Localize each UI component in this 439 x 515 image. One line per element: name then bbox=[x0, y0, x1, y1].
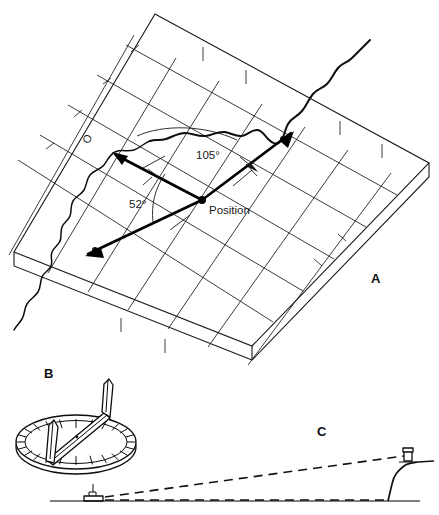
angle-leader-52 bbox=[143, 177, 152, 185]
sight-line-upper bbox=[105, 456, 404, 497]
chart-top-outline bbox=[14, 14, 429, 346]
chart-right-thickness bbox=[252, 163, 429, 360]
panel-label-b: B bbox=[44, 366, 54, 381]
coastline-left-bay bbox=[60, 141, 150, 241]
navigation-figure: O 105° 52° Position bbox=[0, 0, 439, 515]
chart-mark-o: O bbox=[80, 133, 94, 145]
position-label: Position bbox=[209, 204, 250, 216]
chart-edge-ticks bbox=[46, 45, 382, 353]
panel-a-chart: O 105° 52° Position bbox=[9, 14, 429, 365]
angle-label-105: 105° bbox=[196, 149, 220, 161]
ship-hull bbox=[84, 496, 103, 501]
angle-label-52: 52° bbox=[129, 198, 146, 210]
chart-grid-set-2 bbox=[18, 45, 397, 322]
coastline-upper bbox=[281, 40, 370, 141]
pelorus-pivot-dot bbox=[76, 436, 79, 439]
panel-label-c: C bbox=[317, 424, 327, 439]
lighthouse-lantern bbox=[403, 448, 413, 452]
panel-label-a: A bbox=[371, 271, 381, 286]
angle-arc-52 bbox=[153, 174, 166, 222]
callout-line-1 bbox=[143, 156, 165, 168]
callout-line-3 bbox=[233, 170, 252, 186]
position-fix-dot bbox=[198, 196, 206, 204]
figure-canvas: O 105° 52° Position bbox=[0, 0, 439, 515]
bearing-arrow-left bbox=[112, 152, 128, 165]
bearing-line-upper bbox=[202, 133, 291, 200]
headland-profile bbox=[388, 461, 434, 501]
panel-b-pelorus bbox=[16, 379, 136, 474]
lighthouse bbox=[399, 448, 417, 462]
ship bbox=[84, 484, 103, 501]
